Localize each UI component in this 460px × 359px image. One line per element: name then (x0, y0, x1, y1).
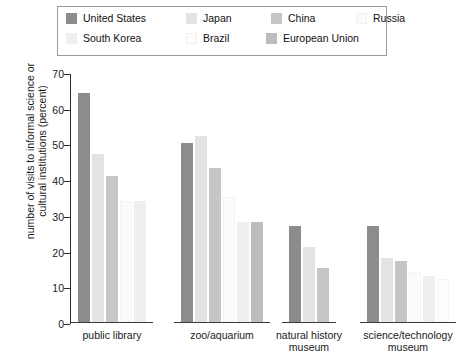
y-axis-tick-label: 30 (40, 212, 64, 222)
bar-brazil[interactable] (437, 279, 449, 322)
bar-russia[interactable] (223, 197, 235, 322)
bar-south-korea[interactable] (237, 222, 249, 322)
y-axis-tick (64, 145, 70, 146)
legend-item-european-union[interactable]: European Union (266, 33, 359, 44)
legend-swatch-icon (66, 13, 77, 24)
chart-legend: United StatesJapanChinaRussiaSouth Korea… (57, 6, 387, 56)
legend-swatch-icon (266, 33, 277, 44)
bar-china[interactable] (317, 268, 329, 322)
group-baseline (282, 322, 336, 323)
y-axis-tick-label: 20 (40, 248, 64, 258)
x-axis-category-label: science/technology museum (356, 329, 460, 353)
bar-china[interactable] (395, 261, 407, 322)
bar-china[interactable] (209, 168, 221, 322)
bar-group (367, 73, 449, 323)
x-axis-category-label: public library (60, 329, 164, 341)
legend-label: Russia (373, 13, 405, 24)
bar-group (78, 73, 146, 323)
legend-swatch-icon (186, 33, 197, 44)
bar-japan[interactable] (381, 258, 393, 322)
legend-item-japan[interactable]: Japan (186, 13, 232, 24)
bar-south-korea[interactable] (134, 201, 146, 322)
legend-row: United StatesJapanChinaRussia (66, 13, 378, 33)
y-axis-tick (64, 253, 70, 254)
bar-european-union[interactable] (251, 222, 263, 322)
legend-swatch-icon (271, 13, 282, 24)
y-axis-tick-label: 0 (40, 319, 64, 329)
y-axis-tick (64, 217, 70, 218)
group-baseline (174, 322, 270, 323)
legend-row: South KoreaBrazilEuropean Union (66, 33, 378, 53)
legend-label: United States (83, 13, 146, 24)
legend-item-south-korea[interactable]: South Korea (66, 33, 141, 44)
plot-area (71, 74, 423, 323)
y-axis-tick (64, 110, 70, 111)
bar-japan[interactable] (195, 136, 207, 322)
legend-label: Japan (203, 13, 232, 24)
bar-south-korea[interactable] (423, 276, 435, 322)
y-axis-tick (64, 181, 70, 182)
bar-russia[interactable] (409, 272, 421, 322)
bar-united-states[interactable] (78, 93, 90, 322)
y-axis-tick (64, 74, 70, 75)
bar-japan[interactable] (303, 247, 315, 322)
y-axis-tick-label: 40 (40, 176, 64, 186)
bar-united-states[interactable] (289, 226, 301, 322)
y-axis-tick-labels: 010203040506070 (34, 74, 64, 324)
x-axis-category-label: natural history museum (257, 329, 361, 353)
bar-united-states[interactable] (367, 226, 379, 322)
bar-china[interactable] (106, 176, 118, 322)
y-axis-tick-label: 70 (40, 69, 64, 79)
legend-swatch-icon (186, 13, 197, 24)
legend-swatch-icon (356, 13, 367, 24)
legend-label: Brazil (203, 33, 229, 44)
y-axis-tick (64, 288, 70, 289)
legend-item-russia[interactable]: Russia (356, 13, 405, 24)
legend-label: European Union (283, 33, 359, 44)
y-axis-tick-label: 50 (40, 140, 64, 150)
legend-item-brazil[interactable]: Brazil (186, 33, 229, 44)
legend-swatch-icon (66, 33, 77, 44)
group-baseline (360, 322, 456, 323)
bar-japan[interactable] (92, 154, 104, 322)
bar-united-states[interactable] (181, 143, 193, 322)
y-axis-tick-label: 10 (40, 283, 64, 293)
legend-label: South Korea (83, 33, 141, 44)
bar-russia[interactable] (120, 201, 132, 322)
bar-group (289, 73, 329, 323)
legend-item-united-states[interactable]: United States (66, 13, 146, 24)
y-axis-tick-label: 60 (40, 105, 64, 115)
y-axis-tick (64, 324, 70, 325)
bar-group (181, 73, 263, 323)
group-baseline (71, 322, 153, 323)
legend-label: China (288, 13, 315, 24)
legend-item-china[interactable]: China (271, 13, 315, 24)
